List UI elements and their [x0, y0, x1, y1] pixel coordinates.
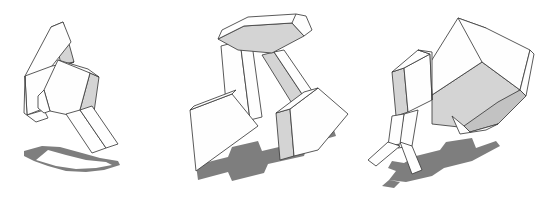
figures-svg: Three articulated block figures line dra…	[0, 0, 539, 200]
drawing-canvas: Three articulated block figures line dra…	[0, 0, 539, 200]
figure-middle	[190, 14, 348, 181]
figure-left	[24, 22, 120, 172]
shadow-left	[24, 146, 120, 172]
figure-right	[368, 18, 534, 188]
